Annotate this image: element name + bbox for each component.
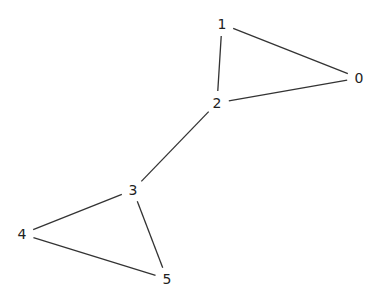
edge-0-1 <box>233 28 348 73</box>
node-label-5: 5 <box>163 271 172 287</box>
node-label-3: 3 <box>129 182 138 198</box>
node-label-0: 0 <box>355 70 364 86</box>
edge-1-2 <box>218 36 221 91</box>
edge-4-5 <box>33 238 155 276</box>
edge-3-5 <box>137 201 162 268</box>
node-label-4: 4 <box>18 226 27 242</box>
node-layer: 012345 <box>18 16 364 287</box>
edge-layer <box>33 28 348 275</box>
edge-3-4 <box>33 194 122 229</box>
node-label-1: 1 <box>218 16 227 32</box>
edge-2-3 <box>141 112 208 182</box>
graph-diagram: 012345 <box>0 0 374 298</box>
graph-canvas: 012345 <box>0 0 374 298</box>
edge-0-2 <box>229 80 347 101</box>
node-label-2: 2 <box>213 95 222 111</box>
